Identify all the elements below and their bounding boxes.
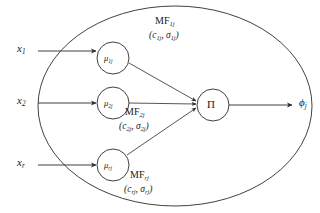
mf-params-mfrj: (crj, σrj) — [124, 185, 152, 195]
output-label-phij: ϕj — [299, 97, 307, 108]
mf-params-mf2j: (c2j, σ2j) — [119, 122, 149, 132]
product-node-label: Π — [207, 99, 215, 110]
link-mu2j-to-pi — [129, 103, 196, 104]
membership-label-mu2j: μ2j — [104, 99, 113, 108]
mf-name-mf1j: MF1j — [155, 16, 175, 26]
mf-name-mf2j: MF2j — [125, 107, 145, 117]
diagram-canvas: x1 x2 xr μ1j μ2j μrj Π MF1j (c1j, σ1j) M… — [0, 0, 320, 213]
mf-params-mf1j: (c1j, σ1j) — [149, 31, 179, 41]
membership-node-mu1j — [97, 42, 129, 74]
membership-label-murj: μrj — [104, 161, 112, 170]
input-label-x1: x1 — [17, 43, 26, 54]
membership-node-murj — [97, 149, 129, 181]
input-label-x2: x2 — [17, 95, 26, 106]
mf-name-mfrj: MFrj — [130, 170, 149, 180]
membership-label-mu1j: μ1j — [104, 54, 113, 63]
input-label-xr: xr — [17, 157, 25, 168]
link-mu1j-to-pi — [129, 63, 196, 101]
